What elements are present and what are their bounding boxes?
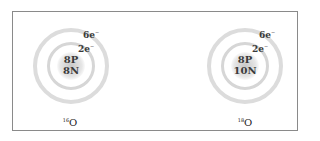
outer-shell-electrons: 6e — [83, 30, 95, 40]
proton-count: 8P — [31, 55, 111, 65]
outer-shell-electrons: 6e — [259, 30, 271, 40]
isotope-label-o18: 18O — [225, 115, 265, 128]
neutron-count: 8N — [31, 66, 111, 76]
charge-sign: − — [271, 29, 275, 35]
charge-sign: − — [95, 29, 99, 35]
inner-shell-electrons: 2e — [252, 44, 264, 54]
element-symbol: O — [69, 117, 77, 128]
inner-shell-electrons: 2e — [78, 44, 90, 54]
proton-count: 8P — [205, 55, 285, 65]
charge-sign: − — [90, 43, 94, 49]
charge-sign: − — [264, 43, 268, 49]
element-symbol: O — [244, 117, 252, 128]
inner-shell-label: 2e− — [252, 42, 268, 54]
outer-shell-label: 6e− — [83, 28, 99, 40]
inner-shell-label: 2e− — [78, 42, 94, 54]
isotope-label-o16: 16O — [50, 115, 90, 128]
neutron-count: 10N — [205, 66, 285, 76]
outer-shell-label: 6e− — [259, 28, 275, 40]
